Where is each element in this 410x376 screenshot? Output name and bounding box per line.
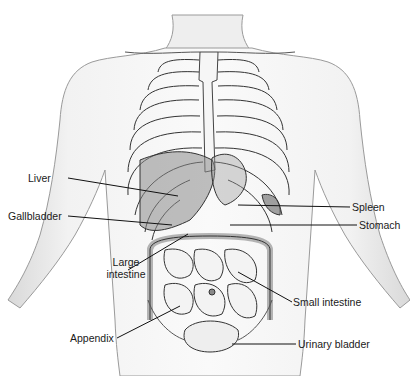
anatomy-figure: Liver Gallbladder Large intestine Append… <box>0 0 410 376</box>
label-large-intestine-line2: intestine <box>96 268 156 280</box>
label-appendix: Appendix <box>70 332 114 344</box>
label-spleen: Spleen <box>352 201 385 213</box>
label-stomach: Stomach <box>359 219 400 231</box>
urinary-bladder <box>184 321 239 352</box>
label-large-intestine-line1: Large <box>96 256 156 268</box>
label-small-intestine: Small intestine <box>293 296 361 308</box>
label-gallbladder: Gallbladder <box>8 210 62 222</box>
label-urinary-bladder: Urinary bladder <box>298 338 370 350</box>
label-liver: Liver <box>28 172 51 184</box>
torso-illustration <box>0 0 410 376</box>
